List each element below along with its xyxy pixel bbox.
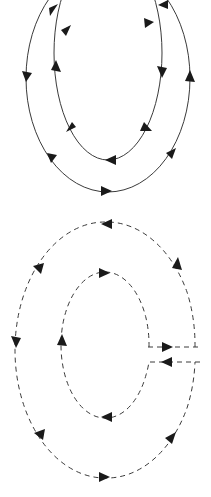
arrow-upper-outer-top-left xyxy=(49,4,58,16)
arrow-upper-inner-upper-left xyxy=(61,25,71,36)
upper-inner-loop xyxy=(51,0,167,165)
lower-dashed-group xyxy=(11,219,200,482)
arrow-lower-inner-bottom xyxy=(101,412,112,422)
arrow-lower-outer-right-up xyxy=(172,257,182,270)
diagram-canvas xyxy=(0,0,211,497)
arrow-connector-outbound xyxy=(162,342,173,352)
arrow-connector-inbound xyxy=(161,357,172,367)
arrow-upper-inner-right-down xyxy=(157,66,167,78)
lower-inner-loop-path xyxy=(61,272,149,418)
lower-outer-loop xyxy=(11,219,195,482)
arrow-upper-outer-lower-right xyxy=(166,148,176,159)
arrow-lower-outer-top xyxy=(101,219,112,229)
arrow-lower-outer-bottom xyxy=(99,472,110,482)
arrow-upper-inner-bottom-right xyxy=(140,122,152,131)
lower-inner-loop xyxy=(57,268,149,422)
arrow-lower-outer-lower-right xyxy=(165,432,176,444)
arrow-upper-inner-top-right xyxy=(144,18,154,28)
arrow-upper-inner-bottom xyxy=(105,155,116,165)
lower-loop-connectors xyxy=(148,342,200,367)
upper-solid-group xyxy=(22,0,195,196)
arrow-upper-outer-top-right xyxy=(158,0,168,9)
arrow-lower-inner-left-up xyxy=(57,334,67,346)
upper-outer-loop xyxy=(22,0,195,196)
arrow-upper-outer-bottom xyxy=(101,186,112,196)
arrow-upper-outer-right-up xyxy=(185,70,195,82)
arrow-lower-outer-left-down xyxy=(11,336,21,348)
upper-outer-loop-path xyxy=(26,0,190,192)
arrow-upper-inner-left-up xyxy=(51,60,61,72)
arrow-upper-outer-left-down xyxy=(22,71,32,82)
arrow-lower-inner-top xyxy=(99,268,110,278)
arrow-upper-outer-lower-left xyxy=(47,153,57,163)
arrow-lower-outer-upper-left xyxy=(33,263,44,274)
flow-loop-diagram xyxy=(0,0,211,497)
